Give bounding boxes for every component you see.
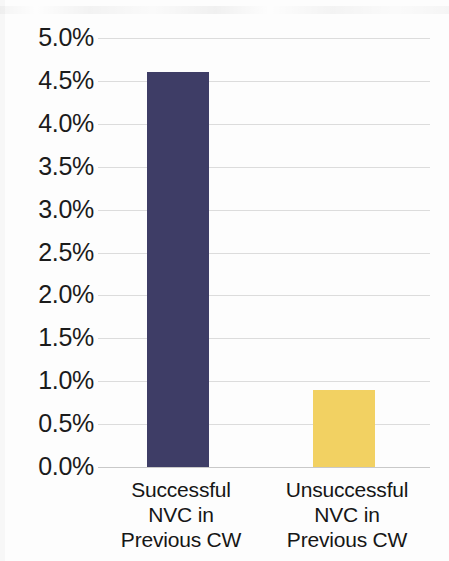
y-axis: 5.0%4.5%4.0%3.5%3.0%2.5%2.0%1.5%1.0%0.5%… [0,0,94,561]
y-axis-tick-label: 1.0% [2,368,94,393]
y-axis-tick-label: 3.0% [2,197,94,222]
y-axis-tick-label: 2.0% [2,282,94,307]
x-axis-tick-line: Successful [88,477,274,502]
x-axis-tick-line: Unsuccessful [254,477,440,502]
x-axis-tick-line: NVC in [88,502,274,527]
y-axis-tick-label: 4.0% [2,111,94,136]
x-axis-tick-line: Previous CW [88,527,274,552]
gridline [98,38,430,39]
y-axis-tick-label: 3.5% [2,154,94,179]
x-axis-tick-line: Previous CW [254,527,440,552]
x-axis-tick-label: UnsuccessfulNVC inPrevious CW [254,477,440,552]
y-axis-tick-label: 2.5% [2,240,94,265]
x-axis-tick-label: SuccessfulNVC inPrevious CW [88,477,274,552]
y-axis-tick-label: 1.5% [2,325,94,350]
y-axis-tick-label: 5.0% [2,25,94,50]
bar [313,390,375,467]
bar [147,72,209,467]
y-axis-tick-label: 4.5% [2,68,94,93]
x-axis: SuccessfulNVC inPrevious CWUnsuccessfulN… [98,477,430,557]
x-axis-tick-line: NVC in [254,502,440,527]
bar-chart: 5.0%4.5%4.0%3.5%3.0%2.5%2.0%1.5%1.0%0.5%… [0,0,449,561]
gridline [98,467,430,468]
y-axis-tick-label: 0.0% [2,454,94,479]
plot-area [98,38,430,467]
y-axis-tick-label: 0.5% [2,411,94,436]
